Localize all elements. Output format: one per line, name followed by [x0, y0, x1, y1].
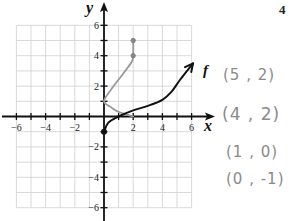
x-axis-label: x — [203, 117, 212, 134]
handwritten-note: (0 , -1) — [226, 170, 285, 188]
f-curve-path — [104, 63, 193, 131]
x-tick-label: 2 — [131, 122, 136, 133]
x-tick-label: −4 — [40, 122, 51, 133]
f-start-point — [101, 129, 107, 135]
y-tick-label: −6 — [88, 202, 99, 213]
x-tick-label: −2 — [69, 122, 80, 133]
axes — [2, 2, 215, 221]
function-f-curve — [101, 63, 193, 134]
inverse-point-marker — [131, 38, 135, 42]
y-tick-label: 4 — [94, 50, 99, 61]
y-tick-label: 6 — [94, 20, 99, 31]
x-tick-label: −6 — [11, 122, 22, 133]
x-tick-label: 6 — [189, 122, 194, 133]
y-axis-label: y — [84, 0, 94, 17]
handwritten-note: (4 , 2) — [222, 104, 280, 124]
y-tick-label: −2 — [88, 141, 99, 152]
inverse-sketch-curve — [104, 38, 135, 116]
problem-number: 4 — [279, 2, 286, 18]
handwritten-note: (5 , 2) — [223, 66, 275, 84]
x-tick-label: 4 — [160, 122, 165, 133]
y-tick-label: −4 — [88, 172, 99, 183]
function-label-f: f — [203, 62, 210, 78]
handwritten-note: (1 , 0) — [226, 143, 278, 161]
y-tick-label: 2 — [94, 81, 99, 92]
inverse-point-marker — [131, 54, 135, 58]
